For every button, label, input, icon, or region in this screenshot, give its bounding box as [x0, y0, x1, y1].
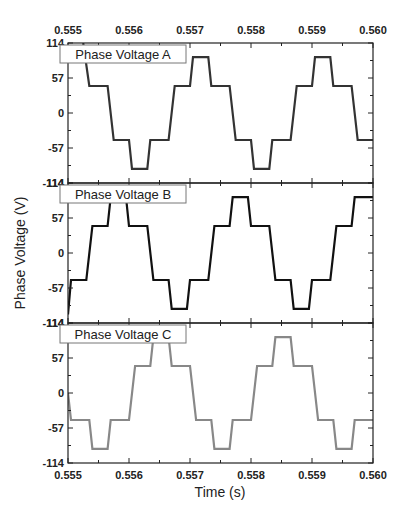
legend-label: Phase Voltage A: [75, 47, 171, 62]
x-tick-label-top: 0.555: [54, 24, 82, 36]
legend-phase-a: Phase Voltage A: [60, 45, 186, 63]
y-tick-label: 57: [52, 212, 64, 224]
panel-c: 114570-57-114Phase Voltage C: [43, 317, 373, 469]
y-tick-label: 57: [52, 72, 64, 84]
waveform-line: [68, 197, 373, 314]
panels: 114570-57-114Phase Voltage A114570-57-11…: [43, 37, 373, 469]
panel-b: 114570-57-114Phase Voltage B: [43, 177, 373, 329]
x-axis-title: Time (s): [195, 484, 246, 500]
y-tick-label: -57: [48, 142, 64, 154]
y-tick-label: 0: [58, 387, 64, 399]
x-tick-label-bottom: 0.556: [115, 469, 143, 481]
y-tick-label: 0: [58, 107, 64, 119]
top-x-tick-labels: 0.5550.5560.5570.5580.5590.560: [54, 24, 387, 36]
x-tick-label-top: 0.557: [176, 24, 204, 36]
y-tick-label: -114: [43, 457, 65, 469]
y-tick-label: 57: [52, 352, 64, 364]
x-tick-label-top: 0.560: [359, 24, 387, 36]
legend-label: Phase Voltage C: [75, 327, 172, 342]
x-tick-label-bottom: 0.555: [54, 469, 82, 481]
y-tick-label: -57: [48, 422, 64, 434]
x-tick-label-bottom: 0.557: [176, 469, 204, 481]
x-tick-label-top: 0.558: [237, 24, 265, 36]
legend-phase-c: Phase Voltage C: [60, 325, 186, 343]
plot-frame: [68, 183, 373, 323]
x-tick-label-bottom: 0.558: [237, 469, 265, 481]
x-tick-label-top: 0.556: [115, 24, 143, 36]
panel-a: 114570-57-114Phase Voltage A: [43, 37, 373, 189]
bottom-x-tick-labels: 0.5550.5560.5570.5580.5590.560: [54, 469, 387, 481]
plot-frame: [68, 323, 373, 463]
plot-frame: [68, 43, 373, 183]
y-tick-label: -57: [48, 282, 64, 294]
legend-phase-b: Phase Voltage B: [60, 185, 186, 203]
waveform-line: [68, 337, 373, 449]
y-tick-label: 0: [58, 247, 64, 259]
x-tick-label-top: 0.559: [298, 24, 326, 36]
x-tick-label-bottom: 0.559: [298, 469, 326, 481]
legend-label: Phase Voltage B: [75, 187, 171, 202]
x-tick-label-bottom: 0.560: [359, 469, 387, 481]
figure: 0.5550.5560.5570.5580.5590.560 114570-57…: [0, 0, 407, 521]
y-axis-title: Phase Voltage (V): [12, 197, 28, 310]
